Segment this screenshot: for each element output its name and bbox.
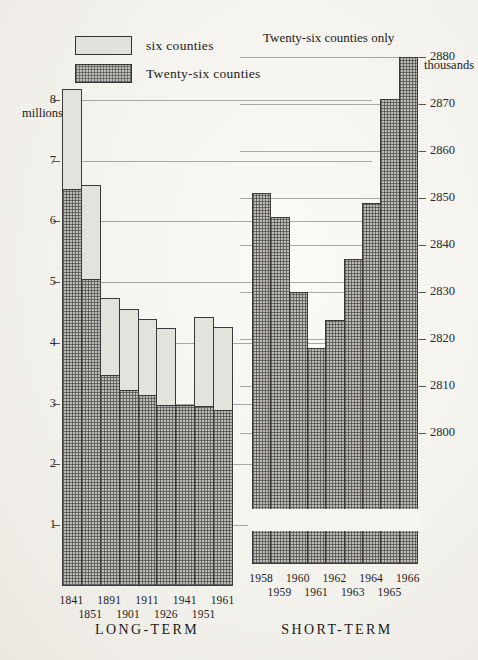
bar-short-term-lower bbox=[325, 528, 344, 564]
x-axis-label-long-term: 1901 bbox=[116, 608, 140, 620]
gridline-short-term bbox=[240, 57, 419, 58]
y-tick-short-term bbox=[419, 292, 426, 293]
short-term-title: SHORT-TERM bbox=[281, 622, 392, 638]
y-tick-label-short-term: 2870 bbox=[430, 96, 455, 111]
x-axis-label-short-term: 1965 bbox=[378, 586, 402, 598]
y-tick-short-term bbox=[419, 151, 426, 152]
bar-segment-six-counties bbox=[81, 185, 101, 280]
bar-segment-twenty-six-counties bbox=[175, 405, 195, 585]
bar-segment-twenty-six-counties bbox=[100, 375, 120, 586]
y-tick-label-short-term: 2850 bbox=[430, 190, 455, 205]
bar-short-term-lower bbox=[307, 528, 326, 564]
y-tick-label-long-term: 4 bbox=[38, 335, 56, 350]
axis-break-band bbox=[248, 509, 423, 531]
bar-short-term bbox=[362, 203, 381, 512]
y-tick-short-term bbox=[419, 57, 426, 58]
x-axis-label-short-term: 1958 bbox=[249, 572, 273, 584]
bar-short-term-lower bbox=[399, 528, 418, 564]
bar-short-term-lower bbox=[344, 528, 363, 564]
legend-swatch-six-counties bbox=[75, 36, 132, 55]
x-axis-label-short-term: 1960 bbox=[286, 572, 310, 584]
y-tick-label-long-term: 3 bbox=[38, 396, 56, 411]
y-tick-label-long-term: 8 bbox=[38, 92, 56, 107]
bar-segment-six-counties bbox=[156, 328, 176, 407]
y-tick-short-term bbox=[419, 433, 426, 434]
y-tick-label-short-term: 2840 bbox=[430, 237, 455, 252]
bar-segment-twenty-six-counties bbox=[119, 390, 139, 586]
bar-segment-six-counties bbox=[138, 319, 158, 396]
y-tick-label-short-term: 2800 bbox=[430, 425, 455, 440]
y-tick-label-short-term: 2880 bbox=[430, 49, 455, 64]
left-axis-unit-label: millions bbox=[22, 106, 63, 121]
x-axis-label-long-term: 1841 bbox=[60, 594, 84, 606]
y-tick-label-long-term: 7 bbox=[38, 153, 56, 168]
y-tick-short-term bbox=[419, 198, 426, 199]
y-tick-label-long-term: 5 bbox=[38, 274, 56, 289]
y-tick-short-term bbox=[419, 386, 426, 387]
gridline-long-term bbox=[62, 161, 372, 162]
legend: six counties Twenty-six counties bbox=[75, 34, 261, 90]
bar-short-term-lower bbox=[362, 528, 381, 564]
bar-segment-six-counties bbox=[194, 317, 214, 407]
y-tick-label-short-term: 2860 bbox=[430, 143, 455, 158]
bar-short-term-lower bbox=[380, 528, 399, 564]
x-axis-label-long-term: 1926 bbox=[154, 608, 178, 620]
bar-segment-twenty-six-counties bbox=[138, 395, 158, 586]
chart-page: six counties Twenty-six counties million… bbox=[0, 0, 478, 660]
legend-swatch-twenty-six-counties bbox=[75, 64, 132, 83]
gridline-long-term bbox=[62, 221, 372, 222]
x-axis-label-long-term: 1891 bbox=[97, 594, 121, 606]
x-axis-label-long-term: 1911 bbox=[135, 594, 158, 606]
long-term-title: LONG-TERM bbox=[95, 622, 199, 638]
bar-segment-twenty-six-counties bbox=[81, 279, 101, 586]
bar-short-term bbox=[270, 217, 289, 512]
bar-short-term bbox=[252, 193, 271, 512]
y-tick-label-short-term: 2830 bbox=[430, 284, 455, 299]
bar-short-term-lower bbox=[252, 528, 271, 564]
x-axis-label-short-term: 1962 bbox=[323, 572, 347, 584]
gridline-long-term bbox=[62, 100, 372, 101]
y-tick-label-short-term: 2810 bbox=[430, 378, 455, 393]
x-axis-label-short-term: 1966 bbox=[396, 572, 420, 584]
bar-short-term bbox=[399, 57, 418, 512]
gridline-long-term bbox=[62, 282, 372, 283]
x-axis-label-short-term: 1959 bbox=[268, 586, 292, 598]
bar-short-term bbox=[289, 292, 308, 512]
x-axis-label-short-term: 1963 bbox=[341, 586, 365, 598]
bar-short-term-lower bbox=[289, 528, 308, 564]
bar-segment-twenty-six-counties bbox=[62, 189, 82, 585]
x-axis-label-short-term: 1961 bbox=[304, 586, 328, 598]
legend-item-twenty-six-counties: Twenty-six counties bbox=[75, 62, 261, 85]
x-axis-label-long-term: 1961 bbox=[211, 594, 235, 606]
legend-label-twenty-six-counties: Twenty-six counties bbox=[146, 66, 261, 82]
bar-segment-six-counties bbox=[213, 327, 233, 411]
x-axis-label-short-term: 1964 bbox=[359, 572, 383, 584]
bar-segment-six-counties bbox=[100, 298, 120, 376]
y-tick-label-long-term: 1 bbox=[38, 517, 56, 532]
bar-short-term bbox=[344, 259, 363, 512]
y-tick-label-long-term: 2 bbox=[38, 456, 56, 471]
bar-segment-twenty-six-counties bbox=[213, 410, 233, 586]
bar-segment-six-counties bbox=[119, 309, 139, 391]
y-tick-short-term bbox=[419, 339, 426, 340]
right-panel-caption: Twenty-six counties only bbox=[263, 30, 394, 46]
bar-short-term bbox=[307, 348, 326, 512]
x-axis-label-long-term: 1951 bbox=[192, 608, 216, 620]
bar-short-term bbox=[380, 99, 399, 512]
x-axis-label-long-term: 1941 bbox=[173, 594, 197, 606]
legend-label-six-counties: six counties bbox=[146, 38, 214, 54]
bar-short-term-lower bbox=[270, 528, 289, 564]
bar-short-term bbox=[325, 320, 344, 512]
y-tick-short-term bbox=[419, 245, 426, 246]
y-tick-label-long-term: 6 bbox=[38, 213, 56, 228]
legend-item-six-counties: six counties bbox=[75, 34, 261, 57]
y-tick-short-term bbox=[419, 104, 426, 105]
bar-segment-twenty-six-counties bbox=[194, 406, 214, 586]
x-axis-label-long-term: 1851 bbox=[78, 608, 102, 620]
bar-segment-twenty-six-counties bbox=[156, 405, 176, 585]
bar-segment-six-counties bbox=[62, 89, 82, 190]
y-tick-label-short-term: 2820 bbox=[430, 331, 455, 346]
